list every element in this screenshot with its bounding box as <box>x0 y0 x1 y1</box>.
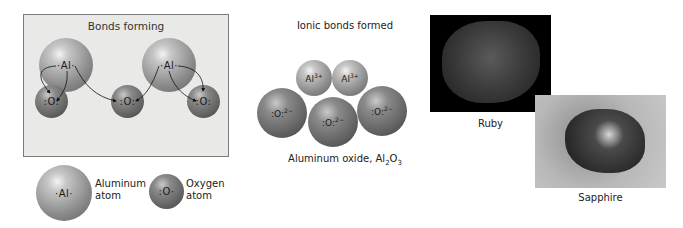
sapphire-photo <box>535 95 666 188</box>
al-ion-symbol: Al <box>341 74 350 84</box>
sapphire-gem <box>565 109 645 173</box>
ruby-caption: Ruby <box>430 118 551 129</box>
electron-transfer-arrows <box>24 15 230 158</box>
o-ion-charge: 2− <box>384 105 393 112</box>
aluminum-ion-1: Al3+ <box>296 60 332 96</box>
legend-oxygen-atom: :O· <box>149 174 184 209</box>
o-ion-charge: 2− <box>335 116 344 123</box>
aluminum-ion-2: Al3+ <box>332 60 368 96</box>
legend-oxygen-symbol: :O· <box>159 186 175 197</box>
legend-oxygen-line1: Oxygen <box>186 178 225 190</box>
caption-sub-3: 3 <box>397 159 401 167</box>
o-ion-symbol: :O: <box>371 107 384 117</box>
al-ion-charge: 3+ <box>350 72 359 79</box>
ionic-bonds-title: Ionic bonds formed <box>280 20 410 31</box>
o-ion-symbol: :O: <box>322 118 335 128</box>
sapphire-caption: Sapphire <box>535 192 666 203</box>
al-ion-symbol: Al <box>305 74 314 84</box>
aluminum-oxide-caption: Aluminum oxide, Al2O3 <box>270 153 420 167</box>
oxide-ion-2: :O:2− <box>308 97 358 147</box>
legend-aluminum-label: Aluminum atom <box>95 178 146 202</box>
bonds-forming-panel: Bonds forming ·Al· ·Al· :O: :O: :O: <box>23 14 229 157</box>
legend-aluminum-line2: atom <box>95 190 146 202</box>
al-ion-charge: 3+ <box>314 72 323 79</box>
legend-oxygen-label: Oxygen atom <box>186 178 225 202</box>
legend-aluminum-symbol: ·Al· <box>55 188 73 199</box>
caption-main: Aluminum oxide, Al <box>288 153 385 164</box>
o-ion-symbol: :O: <box>271 109 284 119</box>
ruby-gem <box>442 21 540 103</box>
legend-aluminum-line1: Aluminum <box>95 178 146 190</box>
o-ion-charge: 2− <box>284 107 293 114</box>
oxide-ion-3: :O:2− <box>357 86 407 136</box>
oxide-ion-1: :O:2− <box>257 88 307 138</box>
ruby-photo <box>430 15 551 112</box>
legend-oxygen-line2: atom <box>186 190 225 202</box>
legend-aluminum-atom: ·Al· <box>36 165 92 221</box>
